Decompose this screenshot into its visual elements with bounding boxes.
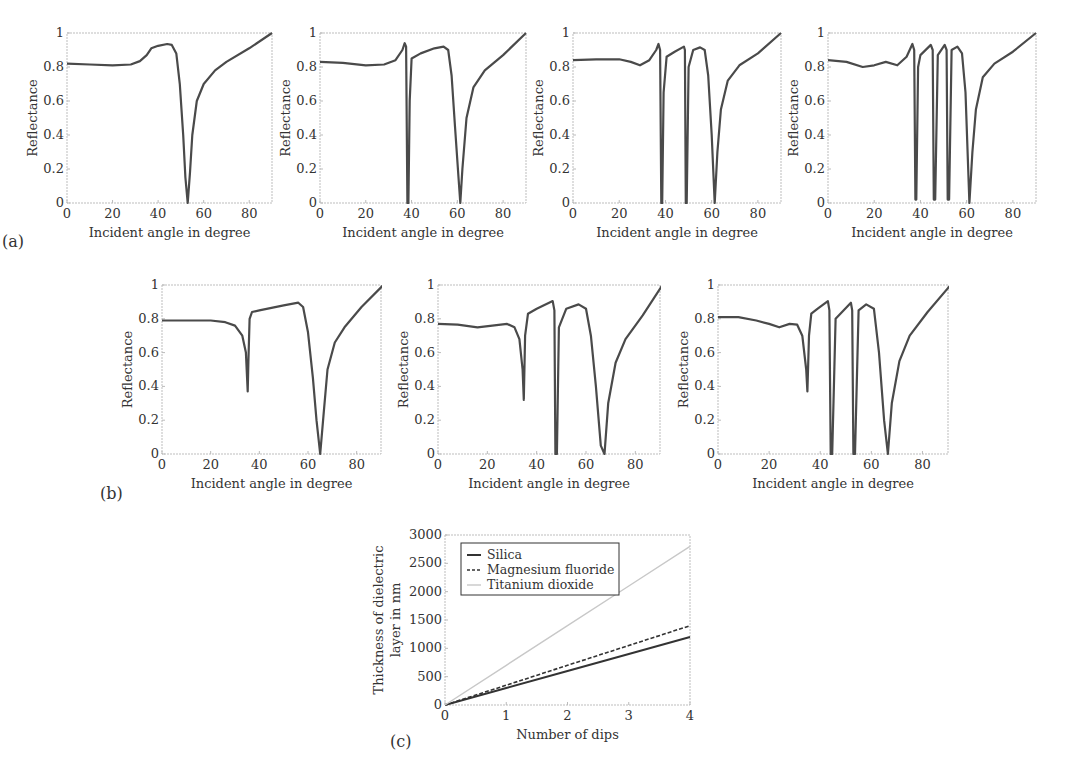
chart-a1: 02040608000.20.40.60.81Incident angle in… bbox=[25, 25, 272, 240]
y-axis-label: Reflectance bbox=[531, 79, 546, 157]
y-tick-label: 0.6 bbox=[549, 93, 570, 108]
x-tick-label: 80 bbox=[495, 206, 512, 221]
x-tick-label: 80 bbox=[241, 206, 258, 221]
y-axis-label: Reflectance bbox=[676, 330, 691, 408]
y-tick-label: 0.6 bbox=[43, 93, 64, 108]
x-tick-label: 60 bbox=[578, 457, 595, 472]
x-axis-label: Incident angle in degree bbox=[468, 476, 630, 491]
x-tick-label: 20 bbox=[358, 206, 375, 221]
y-tick-label: 2500 bbox=[409, 555, 442, 570]
x-tick-label: 20 bbox=[761, 457, 778, 472]
y-axis-label-line: Thickness of dielectric bbox=[371, 546, 386, 695]
y-tick-label: 0 bbox=[56, 195, 64, 210]
y-tick-label: 0.4 bbox=[414, 378, 435, 393]
panel-label-a: (a) bbox=[2, 232, 24, 251]
y-tick-label: 0 bbox=[151, 446, 159, 461]
y-axis-label: Reflectance bbox=[278, 79, 293, 157]
series-line-magnesium-fluoride bbox=[445, 626, 690, 705]
y-tick-label: 1 bbox=[817, 25, 825, 40]
x-tick-label: 80 bbox=[627, 457, 644, 472]
x-tick-label: 60 bbox=[300, 457, 317, 472]
y-tick-label: 0.6 bbox=[694, 345, 715, 360]
figure-canvas: 02040608000.20.40.60.81Incident angle in… bbox=[0, 0, 1066, 779]
y-tick-label: 0.4 bbox=[138, 378, 159, 393]
x-tick-label: 20 bbox=[104, 206, 121, 221]
panel-label-b: (b) bbox=[100, 484, 123, 503]
y-tick-label: 1 bbox=[309, 25, 317, 40]
chart-c: 01234050010001500200025003000Number of d… bbox=[371, 527, 694, 742]
x-tick-label: 3 bbox=[625, 708, 633, 723]
x-axis-label: Incident angle in degree bbox=[596, 225, 758, 240]
y-tick-label: 0 bbox=[434, 697, 442, 712]
y-tick-label: 0.6 bbox=[804, 93, 825, 108]
reflectance-curve bbox=[438, 285, 663, 454]
x-axis-label: Incident angle in degree bbox=[851, 225, 1013, 240]
y-tick-label: 0.8 bbox=[549, 59, 570, 74]
x-axis-label: Incident angle in degree bbox=[191, 476, 353, 491]
x-tick-label: 4 bbox=[686, 708, 694, 723]
y-tick-label: 0.2 bbox=[804, 161, 825, 176]
x-tick-label: 40 bbox=[403, 206, 420, 221]
x-tick-label: 40 bbox=[912, 206, 929, 221]
x-tick-label: 80 bbox=[348, 457, 365, 472]
x-tick-label: 0 bbox=[824, 206, 832, 221]
y-tick-label: 0.6 bbox=[138, 345, 159, 360]
reflectance-curve bbox=[718, 285, 951, 454]
x-tick-label: 20 bbox=[479, 457, 496, 472]
axes-frame bbox=[162, 285, 381, 454]
x-axis-label: Number of dips bbox=[516, 727, 619, 742]
x-tick-label: 0 bbox=[158, 457, 166, 472]
y-tick-label: 0 bbox=[817, 195, 825, 210]
y-tick-label: 0.4 bbox=[43, 127, 64, 142]
series-line-silica bbox=[445, 637, 690, 705]
y-tick-label: 0 bbox=[427, 446, 435, 461]
x-axis-label: Incident angle in degree bbox=[342, 225, 504, 240]
y-tick-label: 0.4 bbox=[804, 127, 825, 142]
legend: SilicaMagnesium fluorideTitanium dioxide bbox=[461, 543, 619, 595]
y-tick-label: 1 bbox=[56, 25, 64, 40]
y-tick-label: 0.4 bbox=[694, 378, 715, 393]
legend-entry: Titanium dioxide bbox=[487, 577, 594, 592]
x-tick-label: 0 bbox=[714, 457, 722, 472]
reflectance-curve bbox=[162, 285, 383, 454]
y-tick-label: 500 bbox=[417, 669, 442, 684]
axes-frame bbox=[438, 285, 660, 454]
axes-frame bbox=[320, 33, 526, 203]
y-tick-label: 0 bbox=[309, 195, 317, 210]
x-tick-label: 0 bbox=[316, 206, 324, 221]
reflectance-curve bbox=[320, 33, 526, 203]
x-tick-label: 60 bbox=[958, 206, 975, 221]
reflectance-curve bbox=[828, 33, 1036, 203]
y-tick-label: 0.8 bbox=[296, 59, 317, 74]
x-tick-label: 60 bbox=[863, 457, 880, 472]
x-tick-label: 60 bbox=[195, 206, 212, 221]
x-tick-label: 40 bbox=[251, 457, 268, 472]
chart-a3: 02040608000.20.40.60.81Incident angle in… bbox=[531, 25, 781, 240]
reflectance-curve bbox=[573, 33, 781, 203]
x-tick-label: 60 bbox=[703, 206, 720, 221]
y-tick-label: 1 bbox=[427, 277, 435, 292]
y-tick-label: 0 bbox=[707, 446, 715, 461]
y-tick-label: 0.8 bbox=[138, 311, 159, 326]
y-tick-label: 1 bbox=[151, 277, 159, 292]
x-tick-label: 0 bbox=[434, 457, 442, 472]
y-tick-label: 0.2 bbox=[549, 161, 570, 176]
y-axis-label: Reflectance bbox=[25, 79, 40, 157]
y-axis-label: Reflectance bbox=[786, 79, 801, 157]
chart-a4: 02040608000.20.40.60.81Incident angle in… bbox=[786, 25, 1036, 240]
panel-label-c: (c) bbox=[390, 732, 411, 751]
x-tick-label: 60 bbox=[449, 206, 466, 221]
x-tick-label: 40 bbox=[812, 457, 829, 472]
y-tick-label: 0.2 bbox=[138, 412, 159, 427]
y-tick-label: 1500 bbox=[409, 612, 442, 627]
x-tick-label: 80 bbox=[1005, 206, 1022, 221]
axes-frame bbox=[67, 33, 272, 203]
chart-b3: 02040608000.20.40.60.81Incident angle in… bbox=[676, 277, 951, 491]
y-tick-label: 0.2 bbox=[296, 161, 317, 176]
y-tick-label: 0.8 bbox=[694, 311, 715, 326]
y-axis-label: Reflectance bbox=[396, 330, 411, 408]
x-tick-label: 20 bbox=[202, 457, 219, 472]
y-tick-label: 1 bbox=[707, 277, 715, 292]
legend-entry: Magnesium fluoride bbox=[487, 562, 614, 577]
x-tick-label: 40 bbox=[528, 457, 545, 472]
